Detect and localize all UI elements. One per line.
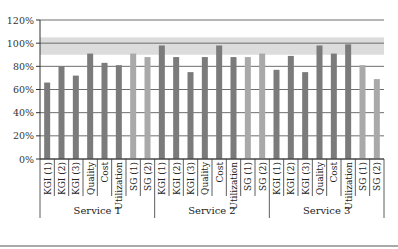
bar <box>231 57 237 159</box>
bar <box>259 54 265 159</box>
x-tick-label: KGI (1) <box>43 162 53 195</box>
bar <box>116 65 122 159</box>
bar <box>374 79 380 159</box>
x-tick-label: SG (1) <box>129 162 139 191</box>
y-tick-label: 120% <box>7 15 34 26</box>
bar <box>130 54 136 159</box>
bar <box>87 54 93 159</box>
x-tick-label: Cost <box>100 162 110 183</box>
x-tick-label: Utilization <box>344 162 354 210</box>
y-tick-label: 20% <box>13 130 34 141</box>
x-tick-label: SG (2) <box>372 162 382 191</box>
x-tick-label: SG (2) <box>143 162 153 191</box>
bar <box>59 66 65 159</box>
bar <box>188 72 194 159</box>
x-tick-label: Cost <box>215 162 225 183</box>
bar <box>317 45 323 159</box>
bar <box>331 54 337 159</box>
y-tick-label: 60% <box>13 84 34 95</box>
x-tick-label: Utilization <box>229 162 239 210</box>
y-tick-label: 40% <box>13 107 34 118</box>
bar <box>360 65 366 159</box>
bar <box>288 56 294 159</box>
group-label: Service 3 <box>303 205 350 216</box>
y-tick-label: 80% <box>13 61 34 72</box>
y-tick-label: 100% <box>7 38 34 49</box>
bars <box>44 44 380 159</box>
y-tick-label: 0% <box>19 154 34 165</box>
x-tick-label: KGI (3) <box>301 162 311 195</box>
bar <box>202 57 208 159</box>
bar <box>173 57 179 159</box>
x-tick-label: Quality <box>200 161 210 195</box>
bar <box>145 57 151 159</box>
x-tick-label: KGI (3) <box>71 162 81 195</box>
group-label: Service 1 <box>74 205 121 216</box>
x-tick-label: KGI (2) <box>172 162 182 195</box>
x-tick-label: Quality <box>86 161 96 195</box>
x-axis: KGI (1)KGI (2)KGI (3)QualityCostUtilizat… <box>40 159 384 218</box>
target-band <box>40 37 384 54</box>
x-tick-label: KGI (2) <box>57 162 67 195</box>
bar <box>302 72 308 159</box>
x-tick-label: Cost <box>329 162 339 183</box>
x-tick-label: SG (1) <box>243 162 253 191</box>
bar <box>216 45 222 159</box>
bar-chart: 0%20%40%60%80%100%120% KGI (1)KGI (2)KGI… <box>0 0 398 249</box>
bar <box>274 70 280 159</box>
x-tick-label: KGI (1) <box>157 162 167 195</box>
x-tick-label: SG (2) <box>258 162 268 191</box>
bar <box>345 44 351 159</box>
bar <box>245 57 251 159</box>
y-axis: 0%20%40%60%80%100%120% <box>7 15 40 165</box>
x-tick-label: KGI (3) <box>186 162 196 195</box>
x-tick-label: KGI (1) <box>272 162 282 195</box>
x-tick-label: Quality <box>315 161 325 195</box>
bar <box>159 45 165 159</box>
target-band-rect <box>40 37 384 54</box>
x-tick-label: SG (1) <box>358 162 368 191</box>
bar <box>102 63 108 159</box>
bar <box>73 76 79 159</box>
bar <box>44 83 50 159</box>
group-label: Service 2 <box>188 205 235 216</box>
x-tick-label: Utilization <box>114 162 124 210</box>
x-tick-label: KGI (2) <box>286 162 296 195</box>
